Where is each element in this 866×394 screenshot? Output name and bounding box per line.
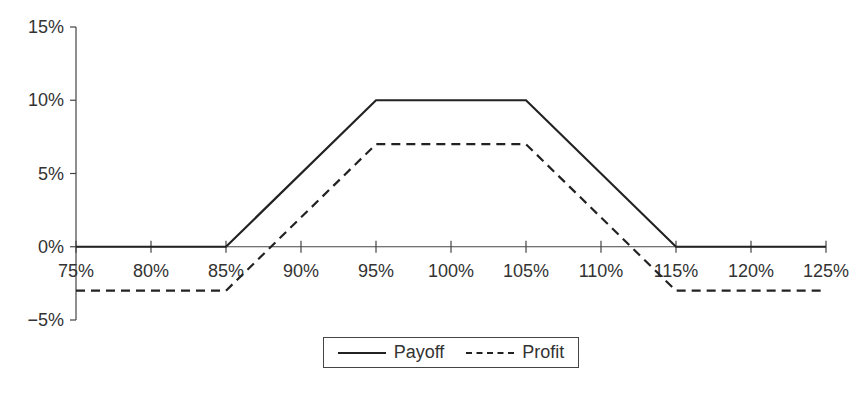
y-tick-label: 0% xyxy=(38,237,64,257)
x-tick-label: 125% xyxy=(803,261,849,281)
legend: Payoff Profit xyxy=(323,337,579,368)
y-tick-label: 5% xyxy=(38,164,64,184)
series-payoff-line xyxy=(76,100,826,247)
dashed-line-icon xyxy=(466,352,514,354)
axes: 15%10%5%0%−5%75%80%85%90%95%100%105%110%… xyxy=(27,17,849,330)
x-tick-label: 80% xyxy=(133,261,169,281)
y-tick-label: 10% xyxy=(28,90,64,110)
x-tick-label: 90% xyxy=(283,261,319,281)
x-tick-label: 120% xyxy=(728,261,774,281)
x-tick-label: 100% xyxy=(428,261,474,281)
x-tick-label: 110% xyxy=(579,261,624,281)
x-tick-label: 105% xyxy=(503,261,549,281)
y-tick-label: −5% xyxy=(27,310,64,330)
legend-item-profit: Profit xyxy=(466,342,564,363)
legend-label-payoff: Payoff xyxy=(394,342,445,363)
legend-label-profit: Profit xyxy=(522,342,564,363)
legend-item-payoff: Payoff xyxy=(338,342,445,363)
solid-line-icon xyxy=(338,352,386,354)
x-tick-label: 115% xyxy=(654,261,699,281)
x-tick-label: 95% xyxy=(358,261,394,281)
payoff-profit-chart: 15%10%5%0%−5%75%80%85%90%95%100%105%110%… xyxy=(0,0,866,394)
x-tick-label: 75% xyxy=(58,261,94,281)
y-tick-label: 15% xyxy=(28,17,64,37)
